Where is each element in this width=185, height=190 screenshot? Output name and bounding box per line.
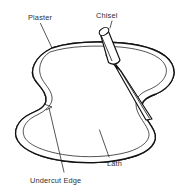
patch-outline-overstroke — [16, 42, 174, 163]
leader-chisel — [110, 21, 112, 28]
label-lath: Lath — [107, 159, 122, 168]
figure-container: Plaster Chisel Undercut Edge Lath — [0, 0, 185, 190]
label-undercut-edge: Undercut Edge — [30, 176, 81, 185]
leader-plaster — [41, 24, 53, 49]
label-plaster: Plaster — [28, 13, 52, 22]
plaster-patch — [0, 40, 185, 164]
label-chisel: Chisel — [96, 11, 118, 20]
plaster-lath-chisel-diagram: Plaster Chisel Undercut Edge Lath — [0, 0, 185, 190]
